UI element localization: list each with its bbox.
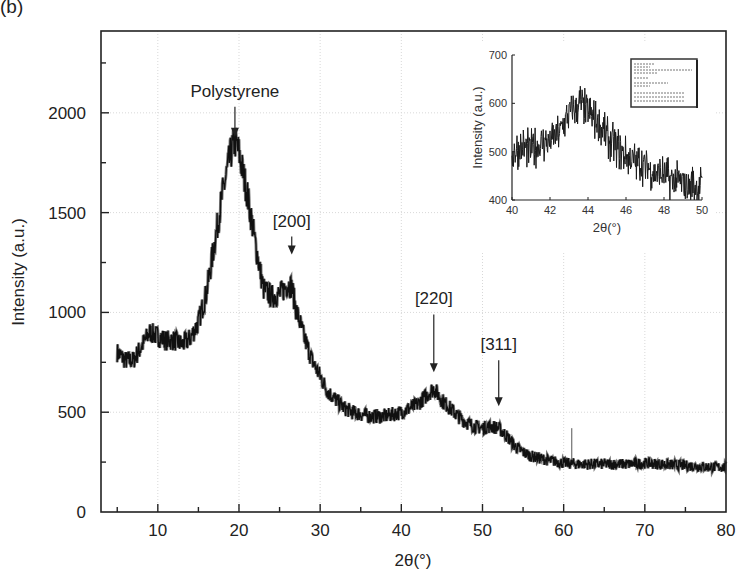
xrd-chart: 10203040506070800500100015002000 Polysty… [0,0,740,571]
peak-label: Polystyrene [191,82,280,101]
inset-y-axis-label: Intensity (a.u.) [470,86,485,168]
peak-label: [200] [273,212,311,231]
inset-x-axis-label: 2θ(°) [593,220,621,235]
inset-y-tick-label: 500 [489,146,507,158]
inset-x-tick-label: 48 [658,204,670,216]
x-tick-label: 70 [635,521,654,540]
x-tick-label: 60 [554,521,573,540]
inset-x-tick-label: 42 [544,204,556,216]
inset-x-tick-label: 40 [506,204,518,216]
peak-label: [220] [415,289,453,308]
inset-y-tick-label: 600 [489,97,507,109]
inset-y-tick-label: 400 [489,194,507,206]
inset-x-tick-label: 44 [582,204,594,216]
y-tick-label: 1500 [48,204,86,223]
x-tick-label: 40 [392,521,411,540]
inset-chart: 4042444648504005006007002θ(°)Intensity (… [470,43,716,252]
x-axis-label: 2θ(°) [394,551,431,570]
arrowhead-icon [430,363,438,372]
y-tick-label: 1000 [48,303,86,322]
x-tick-label: 50 [473,521,492,540]
peak-annotations: Polystyrene[200][220][311] [191,82,517,406]
y-tick-label: 500 [58,403,86,422]
x-tick-label: 20 [230,521,249,540]
arrowhead-icon [288,246,296,255]
y-tick-label: 0 [77,503,86,522]
arrowhead-icon [495,397,503,406]
inset-x-tick-label: 46 [620,204,632,216]
y-tick-label: 2000 [48,104,86,123]
inset-legend-box [631,59,697,108]
y-axis-label: Intensity (a.u.) [9,218,28,326]
inset-x-tick-label: 50 [696,204,708,216]
inset-y-tick-label: 700 [489,49,507,61]
x-tick-label: 30 [311,521,330,540]
x-tick-label: 80 [717,521,736,540]
peak-label: [311] [480,335,517,354]
x-tick-label: 10 [148,521,167,540]
